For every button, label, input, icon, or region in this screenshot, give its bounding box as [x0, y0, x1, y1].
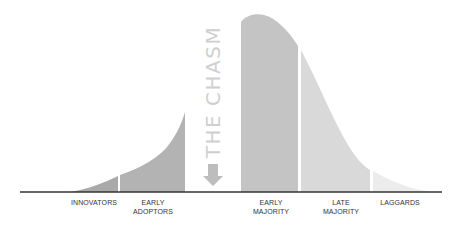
segment-late-majority [301, 50, 370, 192]
chasm-label: THE CHASM [201, 26, 225, 158]
label-innovators: INNOVATORS [70, 198, 118, 207]
segment-laggards [373, 171, 430, 192]
label-innovators-line1: INNOVATORS [70, 198, 118, 207]
label-early-adopters: EARLY ADOPTORS [128, 198, 178, 216]
segment-early-majority [241, 14, 298, 192]
label-early-majority-line1: EARLY [246, 198, 296, 207]
label-early-majority: EARLY MAJORITY [246, 198, 296, 216]
label-early-adopters-line2: ADOPTORS [128, 207, 178, 216]
down-arrow-icon [203, 164, 223, 186]
segment-innovators [70, 176, 118, 192]
adoption-curve-svg [0, 0, 462, 228]
label-late-majority-line2: MAJORITY [316, 207, 366, 216]
label-laggards: LAGGARDS [378, 198, 422, 207]
label-early-adopters-line1: EARLY [128, 198, 178, 207]
label-early-majority-line2: MAJORITY [246, 207, 296, 216]
segment-early-adopters [120, 112, 185, 192]
label-late-majority: LATE MAJORITY [316, 198, 366, 216]
label-late-majority-line1: LATE [316, 198, 366, 207]
adoption-curve-diagram: THE CHASM INNOVATORS EARLY ADOPTORS EARL… [0, 0, 462, 228]
label-laggards-line1: LAGGARDS [378, 198, 422, 207]
